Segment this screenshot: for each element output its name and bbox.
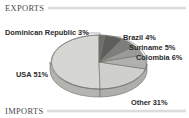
section-title-imports: IMPORTS bbox=[0, 106, 47, 116]
section-header-imports: IMPORTS bbox=[0, 104, 189, 117]
slice-label-brazil: Brazil 4% bbox=[123, 33, 156, 42]
exports-pie-chart-figure: EXPORTS bbox=[0, 0, 189, 118]
slice-label-suriname: Suriname 5% bbox=[129, 43, 175, 52]
section-rule-imports bbox=[47, 109, 186, 113]
section-rule-exports bbox=[48, 6, 186, 10]
slice-label-usa: USA 51% bbox=[16, 70, 48, 79]
pie-chart-area: Dominican Republic 3% Brazil 4% Suriname… bbox=[0, 12, 189, 104]
section-title-exports: EXPORTS bbox=[0, 3, 48, 13]
slice-label-colombia: Colombia 6% bbox=[136, 53, 182, 62]
slice-label-dominican-republic: Dominican Republic 3% bbox=[5, 28, 89, 37]
